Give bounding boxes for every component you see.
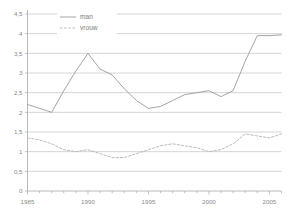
x-tick-label: 1990: [81, 198, 95, 205]
y-tick-label: 2: [19, 109, 23, 116]
series-line-man: [28, 35, 282, 112]
series-line-vrouw: [28, 134, 282, 158]
y-tick-label: 4,5: [14, 10, 23, 17]
y-tick-label: 3: [19, 69, 23, 76]
axes: [28, 10, 282, 191]
x-tick-label: 2005: [263, 198, 277, 205]
chart-canvas: 00,511,522,533,544,5 1985199019952000200…: [0, 0, 289, 219]
x-axis-tick-labels: 19851990199520002005: [21, 198, 277, 205]
y-tick-label: 0,5: [14, 168, 23, 175]
x-tick-label: 1985: [21, 198, 35, 205]
chart-legend: man vrouw: [57, 10, 117, 35]
legend-label-man: man: [80, 13, 93, 20]
y-tick-label: 3,5: [14, 50, 23, 57]
y-tick-label: 4: [19, 30, 23, 37]
line-chart: 00,511,522,533,544,5 1985199019952000200…: [0, 0, 289, 219]
y-tick-label: 1,5: [14, 128, 23, 135]
y-tick-label: 1: [19, 148, 23, 155]
y-axis-tick-labels: 00,511,522,533,544,5: [14, 10, 23, 194]
legend-label-vrouw: vrouw: [80, 24, 98, 31]
y-tick-label: 2,5: [14, 89, 23, 96]
y-tick-label: 0: [19, 187, 23, 194]
x-tick-label: 1995: [142, 198, 156, 205]
x-tick-label: 2000: [202, 198, 216, 205]
x-axis-ticks: [28, 191, 282, 195]
